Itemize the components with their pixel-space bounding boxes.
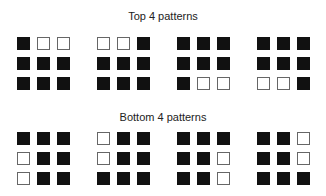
empty-square [257,77,270,90]
filled-square [57,57,70,70]
filled-square [17,57,30,70]
filled-square [297,57,310,70]
pattern-grid [17,37,75,95]
empty-square [17,152,30,165]
empty-square [17,172,30,185]
filled-square [217,37,230,50]
filled-square [137,57,150,70]
filled-square [277,57,290,70]
empty-square [97,152,110,165]
empty-square [97,37,110,50]
section-title-top: Top 4 patterns [0,10,326,22]
filled-square [17,77,30,90]
filled-square [97,77,110,90]
filled-square [37,132,50,145]
pattern-grid [257,132,315,190]
filled-square [57,152,70,165]
filled-square [177,37,190,50]
filled-square [177,172,190,185]
empty-square [297,132,310,145]
empty-square [197,77,210,90]
filled-square [57,132,70,145]
filled-square [217,132,230,145]
filled-square [197,172,210,185]
filled-square [297,37,310,50]
filled-square [97,172,110,185]
pattern-grid [177,37,235,95]
filled-square [37,77,50,90]
filled-square [197,37,210,50]
empty-square [97,132,110,145]
filled-square [17,37,30,50]
filled-square [117,172,130,185]
filled-square [137,152,150,165]
filled-square [57,172,70,185]
filled-square [117,152,130,165]
filled-square [277,37,290,50]
empty-square [57,37,70,50]
filled-square [57,77,70,90]
filled-square [197,132,210,145]
filled-square [277,152,290,165]
pattern-grid [17,132,75,190]
filled-square [137,77,150,90]
filled-square [17,132,30,145]
filled-square [117,77,130,90]
filled-square [257,57,270,70]
filled-square [197,57,210,70]
filled-square [217,57,230,70]
filled-square [137,132,150,145]
empty-square [277,77,290,90]
empty-square [297,152,310,165]
filled-square [277,172,290,185]
filled-square [137,37,150,50]
filled-square [37,172,50,185]
empty-square [217,77,230,90]
pattern-grid [257,37,315,95]
pattern-grid [97,132,155,190]
pattern-grid [97,37,155,95]
empty-square [37,37,50,50]
empty-square [217,172,230,185]
filled-square [37,57,50,70]
filled-square [117,57,130,70]
filled-square [277,132,290,145]
filled-square [257,172,270,185]
filled-square [197,152,210,165]
filled-square [137,172,150,185]
filled-square [177,77,190,90]
filled-square [297,172,310,185]
empty-square [217,152,230,165]
empty-square [117,37,130,50]
filled-square [117,132,130,145]
filled-square [177,152,190,165]
filled-square [177,57,190,70]
filled-square [97,57,110,70]
filled-square [297,77,310,90]
filled-square [177,132,190,145]
filled-square [257,132,270,145]
section-title-bottom: Bottom 4 patterns [0,111,326,123]
filled-square [257,152,270,165]
filled-square [37,152,50,165]
pattern-grid [177,132,235,190]
filled-square [257,37,270,50]
